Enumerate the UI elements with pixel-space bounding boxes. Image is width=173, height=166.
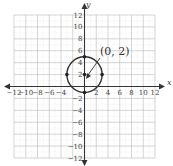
circle-point xyxy=(100,73,104,77)
y-tick-label: −6 xyxy=(72,119,83,127)
x-tick-label: 12 xyxy=(151,89,160,97)
x-tick-label: 6 xyxy=(118,89,123,97)
axes xyxy=(4,3,165,166)
x-tick-label: 4 xyxy=(106,89,111,97)
y-tick-label: 2 xyxy=(78,71,82,79)
circle-point xyxy=(83,55,87,59)
circle-point xyxy=(83,91,87,95)
y-tick-label: 12 xyxy=(74,12,83,20)
y-tick-label: 4 xyxy=(78,59,83,67)
y-tick-label: 8 xyxy=(78,35,82,43)
y-tick-label: −2 xyxy=(72,95,82,103)
center-point xyxy=(83,73,87,77)
circle-point xyxy=(65,73,69,77)
x-axis-label: x xyxy=(167,78,172,87)
y-tick-label: −10 xyxy=(68,143,83,151)
x-tick-label: −10 xyxy=(18,89,33,97)
x-tick-label: 8 xyxy=(129,89,133,97)
x-tick-label: 10 xyxy=(139,89,148,97)
y-tick-label: −8 xyxy=(72,131,82,139)
coordinate-plane: −12−10−8−6−42468101212108642−2−4−6−8−10−… xyxy=(0,0,173,166)
y-tick-label: 10 xyxy=(74,23,83,31)
x-tick-label: −8 xyxy=(32,89,42,97)
y-axis-label: y xyxy=(85,0,91,9)
y-tick-label: −4 xyxy=(72,107,83,115)
center-label: (0, 2) xyxy=(100,45,130,58)
y-tick-label: 6 xyxy=(78,47,83,55)
annotation-arrow xyxy=(88,58,100,75)
y-tick-label: −12 xyxy=(68,155,83,163)
x-tick-label: −6 xyxy=(44,89,55,97)
arrow-right-icon xyxy=(159,84,165,90)
x-tick-label: −4 xyxy=(56,89,67,97)
